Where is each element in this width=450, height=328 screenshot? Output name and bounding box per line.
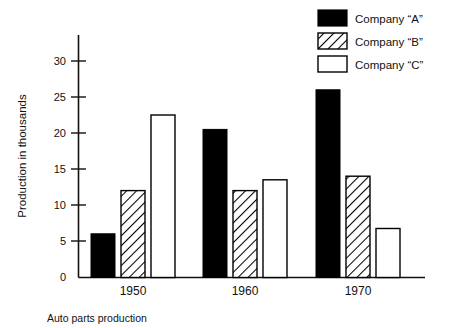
legend-swatch-company-b[interactable] — [318, 33, 347, 49]
y-tick-label-20: 20 — [54, 127, 66, 139]
x-tick-label-1970: 1970 — [345, 284, 372, 298]
bar-1950-company-b[interactable] — [121, 191, 145, 278]
bar-1960-company-c[interactable] — [263, 180, 287, 278]
bar-1960-company-a[interactable] — [203, 129, 227, 277]
bar-group-1960 — [203, 129, 287, 277]
chart-legend: Company “A” Company “B” Company “C” — [318, 10, 424, 72]
y-tick-label-0: 0 — [60, 271, 66, 283]
y-tick-label-30: 30 — [54, 55, 66, 67]
bar-group-1970 — [316, 90, 400, 278]
chart-canvas: 30 25 20 15 10 5 0 Production in thousan… — [0, 0, 450, 328]
y-tick-label-15: 15 — [54, 163, 66, 175]
y-tick-label-25: 25 — [54, 91, 66, 103]
legend-swatch-company-c[interactable] — [318, 56, 347, 72]
bar-1970-company-c[interactable] — [376, 229, 400, 278]
legend-label-company-a: Company “A” — [355, 13, 423, 25]
bar-1970-company-a[interactable] — [316, 90, 340, 278]
bar-1950-company-a[interactable] — [91, 234, 115, 278]
bar-chart-figure: 30 25 20 15 10 5 0 Production in thousan… — [0, 0, 450, 328]
y-tick-label-10: 10 — [54, 199, 66, 211]
figure-caption: Auto parts production — [47, 312, 147, 324]
bar-1960-company-b[interactable] — [233, 191, 257, 278]
y-axis-title: Production in thousands — [16, 94, 28, 218]
x-tick-label-1950: 1950 — [120, 284, 147, 298]
bar-group-1950 — [91, 115, 175, 278]
x-tick-label-1960: 1960 — [232, 284, 259, 298]
legend-label-company-b: Company “B” — [355, 36, 423, 48]
y-axis: 30 25 20 15 10 5 0 — [54, 35, 86, 283]
bar-1970-company-b[interactable] — [346, 176, 370, 277]
legend-swatch-company-a[interactable] — [318, 10, 347, 26]
bar-1950-company-c[interactable] — [151, 115, 175, 278]
legend-label-company-c: Company “C” — [355, 59, 424, 71]
y-tick-label-5: 5 — [60, 235, 66, 247]
